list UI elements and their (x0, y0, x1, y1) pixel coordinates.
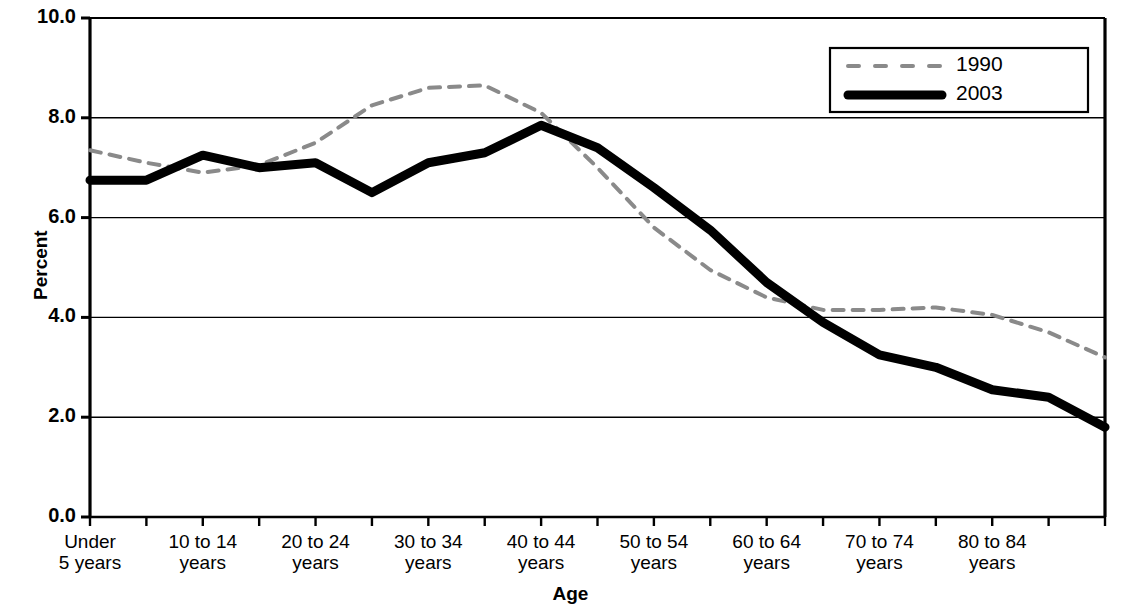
y-tick-label: 2.0 (48, 404, 76, 427)
line-chart-plot (0, 0, 1123, 613)
data-series-group (90, 85, 1105, 427)
y-tick-label: 6.0 (48, 205, 76, 228)
series-line-1990 (90, 85, 1105, 357)
legend-label-1990: 1990 (956, 52, 1003, 76)
series-line-2003 (90, 125, 1105, 427)
y-tick-label: 4.0 (48, 304, 76, 327)
legend-label-2003: 2003 (956, 81, 1003, 105)
x-tick-marks-group (90, 517, 1105, 526)
y-tick-label: 10.0 (37, 5, 76, 28)
x-tick-label-line1: 80 to 84 (922, 531, 1062, 552)
y-axis-title: Percent (30, 230, 52, 300)
y-tick-label: 0.0 (48, 504, 76, 527)
x-tick-label-line2: years (922, 552, 1062, 573)
x-axis-title: Age (9, 583, 1123, 605)
chart-container: Percent 0.02.04.06.08.010.0 Under5 years… (0, 0, 1123, 613)
y-tick-label: 8.0 (48, 105, 76, 128)
x-tick-label: 80 to 84years (922, 531, 1062, 573)
